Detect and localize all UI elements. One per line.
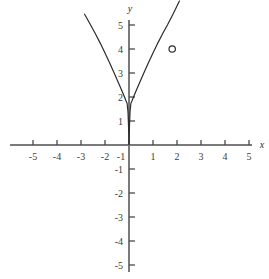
x-axis-letter: x bbox=[259, 139, 265, 150]
x-tick-label: 3 bbox=[199, 151, 204, 162]
y-tick-label: 5 bbox=[118, 20, 123, 31]
x-tick-label: -1 bbox=[117, 151, 125, 162]
x-tick-label: -2 bbox=[101, 151, 109, 162]
x-tick-label: -5 bbox=[29, 151, 37, 162]
y-tick-label: 1 bbox=[118, 116, 123, 127]
y-tick-label: 2 bbox=[118, 92, 123, 103]
y-tick-label: -4 bbox=[115, 236, 123, 247]
x-tick-label: -3 bbox=[77, 151, 85, 162]
y-tick-label: 4 bbox=[118, 44, 123, 55]
graph-screenshot: -5 -4 -3 -2 -1 1 2 3 4 5 5 4 3 2 1 -1 -2… bbox=[0, 0, 269, 279]
open-circle-marker bbox=[169, 46, 175, 52]
y-tick-label: -1 bbox=[115, 164, 123, 175]
x-axis-tick-labels: -5 -4 -3 -2 -1 1 2 3 4 5 bbox=[29, 151, 252, 162]
x-tick-label: 4 bbox=[223, 151, 228, 162]
x-tick-label: 1 bbox=[151, 151, 156, 162]
y-tick-label: 3 bbox=[118, 68, 123, 79]
y-tick-label: -2 bbox=[115, 188, 123, 199]
x-tick-label: 5 bbox=[247, 151, 252, 162]
x-tick-label: -4 bbox=[53, 151, 61, 162]
x-tick-label: 2 bbox=[175, 151, 180, 162]
y-axis-letter: y bbox=[127, 3, 133, 14]
coordinate-plane-figure: -5 -4 -3 -2 -1 1 2 3 4 5 5 4 3 2 1 -1 -2… bbox=[0, 0, 269, 279]
y-tick-label: -5 bbox=[115, 260, 123, 271]
y-tick-label: -3 bbox=[115, 212, 123, 223]
